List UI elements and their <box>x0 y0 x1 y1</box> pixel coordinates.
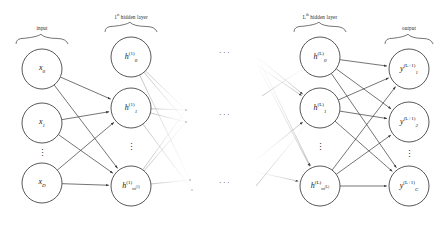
vertical-ellipsis-output-layer: ⋮ <box>405 150 414 159</box>
node-label-h0_1: h(1)0 <box>125 51 137 62</box>
node-label-h1_L: h(L)1 <box>314 102 327 113</box>
gap-dots-top: ··· <box>219 48 231 57</box>
layer-caption-hidden1: 1st hidden layer <box>91 13 171 20</box>
edge-h1_L-to-y2 <box>340 111 387 118</box>
node-label-y1: y(L+1)1 <box>400 63 418 74</box>
brace-hidden1 <box>105 22 157 31</box>
brace-output <box>385 34 433 43</box>
edge-fade-endpoint <box>185 109 187 111</box>
edge-fade-in-to-hm_L-3 <box>256 172 298 181</box>
edge-xD-to-hm_1 <box>62 184 109 186</box>
edge-xD-to-h1_1 <box>57 122 114 170</box>
edge-fade-in-to-h1_L-0 <box>258 58 303 94</box>
edge-x0-to-hm_1 <box>54 85 117 168</box>
edge-x1-to-hm_1 <box>58 135 113 174</box>
edge-x1-to-h1_1 <box>62 112 109 120</box>
edge-h1_L-to-y1 <box>338 78 388 100</box>
edge-h0_L-to-y1 <box>340 60 387 66</box>
vertical-ellipsis-hidden-layer-L: ⋮ <box>316 143 325 152</box>
edge-fade-out-hm_1-1 <box>144 122 186 171</box>
edge-fade-extra-1 <box>256 123 307 186</box>
vertical-ellipsis-hidden-layer-1: ⋮ <box>127 143 136 152</box>
node-label-x1: x1 <box>39 118 45 128</box>
edge-fade-out-h0_1-0 <box>145 71 186 110</box>
layer-caption-output: output <box>369 25 445 31</box>
edge-fade-out-h0_1-2 <box>140 75 190 180</box>
node-label-h0_L: h(L)0 <box>314 51 327 62</box>
edge-hm_L-to-y1 <box>332 87 395 170</box>
edge-fade-endpoint <box>191 189 193 191</box>
layer-caption-hiddenL: Lth hidden layer <box>280 13 360 20</box>
edge-fade-extra-0 <box>262 68 303 96</box>
layer-caption-input: input <box>2 25 82 31</box>
edge-hm_L-to-y2 <box>336 135 391 174</box>
edge-h0_L-to-yC <box>331 73 396 167</box>
brace-hiddenL <box>294 22 346 31</box>
node-label-yC: y(L+1)C <box>400 180 419 191</box>
edge-fade-in-to-h1_L-1 <box>258 66 302 96</box>
node-label-x0: x0 <box>39 64 45 74</box>
node-label-hm_L: h(L)m(L) <box>311 180 329 191</box>
edge-fade-in-to-h1_L-2 <box>256 122 303 160</box>
gap-dots-middle: ··· <box>219 110 231 119</box>
brace-input <box>16 34 68 43</box>
edge-fade-endpoint <box>185 121 187 123</box>
neural-network-diagram: x0x1xD⋮h(1)0h(1)1h(1)m(1)⋮h(L)0h(L)1h(L)… <box>0 0 445 228</box>
node-label-h1_1: h(1)1 <box>125 102 137 113</box>
edge-fade-out-hm_1-2 <box>151 180 190 184</box>
gap-dots-bottom: ··· <box>219 178 231 187</box>
edge-fade-out-hm_1-0 <box>143 110 186 170</box>
edge-fade-endpoint <box>189 179 191 181</box>
node-label-hm_1: h(1)m(1) <box>122 180 139 191</box>
edge-x0-to-h1_1 <box>60 77 110 99</box>
node-label-xD: xD <box>38 178 45 188</box>
vertical-ellipsis-input-layer: ⋮ <box>38 149 47 158</box>
node-label-y2: y(L+1)2 <box>400 116 418 127</box>
edges-group <box>54 58 396 191</box>
